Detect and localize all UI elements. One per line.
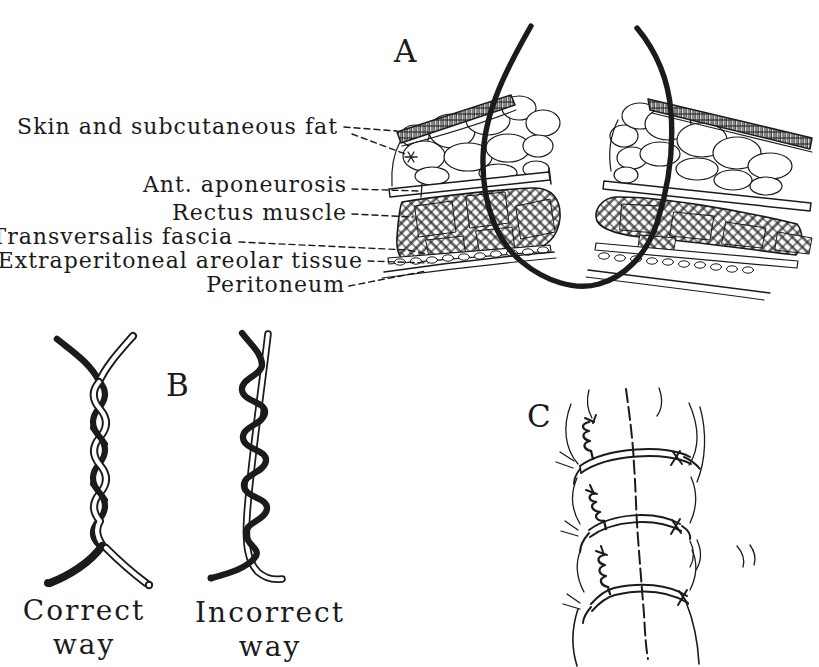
suture-2 xyxy=(580,485,690,552)
flap-lines-1 xyxy=(556,388,705,482)
wrapping-black-strand xyxy=(212,333,267,578)
white-strand-end-loop xyxy=(146,582,152,588)
black-strand-bottom xyxy=(50,546,102,583)
caption-correct-way: Correct way xyxy=(8,594,160,662)
caption-line: way xyxy=(186,630,354,664)
pigtail-knot xyxy=(598,555,608,587)
pigtail-knot xyxy=(590,493,604,521)
twist-incorrect-drawing xyxy=(208,333,283,582)
flap-lines-3 xyxy=(563,545,755,609)
twist-correct-drawing xyxy=(44,336,152,588)
peritoneum-right xyxy=(588,270,770,293)
suture-1 xyxy=(574,415,700,484)
leader-skin-fat-1 xyxy=(344,127,397,131)
caption-incorrect-way: Incorrect way xyxy=(186,596,354,664)
white-strand-bottom xyxy=(106,548,146,583)
black-strand-end xyxy=(44,579,52,587)
suture-ribbon-bottom xyxy=(592,592,688,611)
suture-ribbon-top xyxy=(591,585,687,604)
figure-artwork xyxy=(0,0,819,667)
label-rectus-muscle: Rectus muscle xyxy=(172,200,347,226)
figure-root: A B C Skin and subcutaneous fat Ant. apo… xyxy=(0,0,819,667)
panel-b-letter: B xyxy=(166,367,189,403)
suture-right-tail xyxy=(682,526,690,539)
panel-a-letter: A xyxy=(394,33,416,69)
caption-line: Incorrect xyxy=(186,596,354,630)
label-peritoneum: Peritoneum xyxy=(206,272,345,298)
suture-ribbon-bottom xyxy=(590,522,681,537)
tissue-section-right xyxy=(586,99,812,300)
label-extraperitoneal-areolar-tissue: Extraperitoneal areolar tissue xyxy=(0,248,363,274)
caption-line: Correct xyxy=(8,594,160,628)
suture-3 xyxy=(583,546,688,623)
suture-left-tail xyxy=(583,607,591,623)
incision-line xyxy=(626,389,648,659)
black-strand-end xyxy=(208,575,215,582)
label-skin-subcutaneous-fat: Skin and subcutaneous fat xyxy=(17,114,338,140)
white-strand-top xyxy=(99,336,133,382)
panel-c-letter: C xyxy=(527,398,551,434)
wound-closure-drawing xyxy=(556,388,755,666)
aponeurosis-left-tick xyxy=(549,168,551,184)
fat-left-edge xyxy=(392,142,400,186)
label-transversalis-fascia: Transversalis fascia xyxy=(0,224,233,250)
caption-line: way xyxy=(8,628,160,662)
label-ant-aponeurosis: Ant. aponeurosis xyxy=(143,172,347,198)
pigtail-knot xyxy=(583,422,591,451)
black-strand-top xyxy=(57,339,99,381)
